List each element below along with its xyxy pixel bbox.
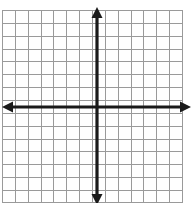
coordinate-plane-figure bbox=[0, 0, 193, 203]
coordinate-grid-screenshot bbox=[0, 0, 193, 203]
